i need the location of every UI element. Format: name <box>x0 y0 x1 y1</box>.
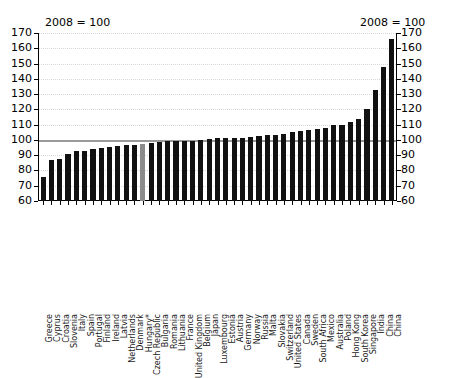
x-tick-mark <box>143 201 144 205</box>
y-tick-label-left: 140 <box>0 73 32 84</box>
bar <box>165 141 170 201</box>
y-tick-label-right: 120 <box>401 103 435 114</box>
bar <box>198 140 203 201</box>
x-tick-mark <box>284 201 285 205</box>
bar <box>124 145 129 201</box>
bar <box>49 160 54 201</box>
bar <box>306 130 311 201</box>
bar <box>115 146 120 201</box>
y-tick-label-left: 170 <box>0 27 32 38</box>
x-tick-mark <box>384 201 385 205</box>
x-tick-mark <box>93 201 94 205</box>
y-tick-label-right: 110 <box>401 119 435 130</box>
bar <box>381 67 386 201</box>
bar <box>41 177 46 201</box>
y-tick-mark-left <box>34 94 38 95</box>
y-tick-mark-left <box>34 64 38 65</box>
y-tick-mark-right <box>397 64 401 65</box>
x-tick-mark <box>359 201 360 205</box>
y-tick-label-left: 110 <box>0 119 32 130</box>
y-tick-mark-left <box>34 33 38 34</box>
x-tick-mark <box>234 201 235 205</box>
x-tick-mark <box>168 201 169 205</box>
x-tick-mark <box>342 201 343 205</box>
bar <box>215 138 220 201</box>
bar <box>265 135 270 201</box>
axis-note-left: 2008 = 100 <box>45 16 110 29</box>
x-tick-mark <box>276 201 277 205</box>
x-tick-mark <box>184 201 185 205</box>
x-tick-mark <box>334 201 335 205</box>
y-tick-label-left: 70 <box>0 180 32 191</box>
x-tick-mark <box>68 201 69 205</box>
x-tick-mark <box>110 201 111 205</box>
bar <box>273 135 278 201</box>
y-tick-label-right: 140 <box>401 73 435 84</box>
y-tick-mark-right <box>397 125 401 126</box>
y-tick-label-left: 100 <box>0 134 32 145</box>
bar <box>74 151 79 201</box>
bar <box>207 139 212 201</box>
bar <box>65 154 70 201</box>
bar <box>315 129 320 201</box>
y-tick-label-right: 160 <box>401 42 435 53</box>
bar <box>107 147 112 201</box>
x-tick-mark <box>134 201 135 205</box>
x-tick-mark <box>76 201 77 205</box>
bar <box>298 131 303 201</box>
y-tick-mark-left <box>34 109 38 110</box>
bar <box>290 132 295 201</box>
bar <box>364 109 369 201</box>
y-tick-mark-right <box>397 79 401 80</box>
x-tick-mark <box>218 201 219 205</box>
bar <box>356 119 361 201</box>
bar <box>190 141 195 201</box>
bar <box>389 39 394 201</box>
x-tick-mark <box>201 201 202 205</box>
x-tick-mark <box>226 201 227 205</box>
y-tick-mark-left <box>34 201 38 202</box>
x-tick-mark <box>301 201 302 205</box>
y-tick-mark-right <box>397 48 401 49</box>
y-tick-label-left: 130 <box>0 88 32 99</box>
y-tick-mark-right <box>397 170 401 171</box>
x-tick-mark <box>51 201 52 205</box>
x-tick-mark <box>267 201 268 205</box>
bar <box>90 149 95 201</box>
y-tick-mark-right <box>397 33 401 34</box>
y-tick-label-right: 60 <box>401 195 435 206</box>
y-tick-label-right: 130 <box>401 88 435 99</box>
y-tick-mark-right <box>397 109 401 110</box>
y-tick-label-right: 150 <box>401 58 435 69</box>
y-tick-mark-left <box>34 140 38 141</box>
y-tick-label-right: 80 <box>401 164 435 175</box>
x-axis-ticks <box>39 201 396 205</box>
x-tick-mark <box>101 201 102 205</box>
y-tick-mark-right <box>397 201 401 202</box>
x-tick-mark <box>350 201 351 205</box>
category-labels: GreeceCyprusCroatiaSloveniaItalySpainPor… <box>39 206 396 316</box>
y-tick-mark-left <box>34 79 38 80</box>
x-tick-mark <box>159 201 160 205</box>
x-tick-mark <box>375 201 376 205</box>
x-tick-mark <box>309 201 310 205</box>
category-label: Japan <box>212 314 220 336</box>
y-tick-label-left: 150 <box>0 58 32 69</box>
y-tick-label-left: 60 <box>0 195 32 206</box>
bar <box>149 143 154 201</box>
bar <box>140 144 145 201</box>
y-tick-mark-left <box>34 170 38 171</box>
x-tick-mark <box>259 201 260 205</box>
y-tick-label-right: 70 <box>401 180 435 191</box>
y-axis-right <box>396 33 397 201</box>
bar <box>240 138 245 201</box>
x-tick-mark <box>392 201 393 205</box>
x-tick-mark <box>209 201 210 205</box>
y-tick-mark-left <box>34 155 38 156</box>
x-tick-mark <box>176 201 177 205</box>
bar <box>256 136 261 201</box>
bar <box>82 151 87 201</box>
bar <box>223 138 228 201</box>
bar <box>182 141 187 201</box>
bar <box>248 137 253 201</box>
